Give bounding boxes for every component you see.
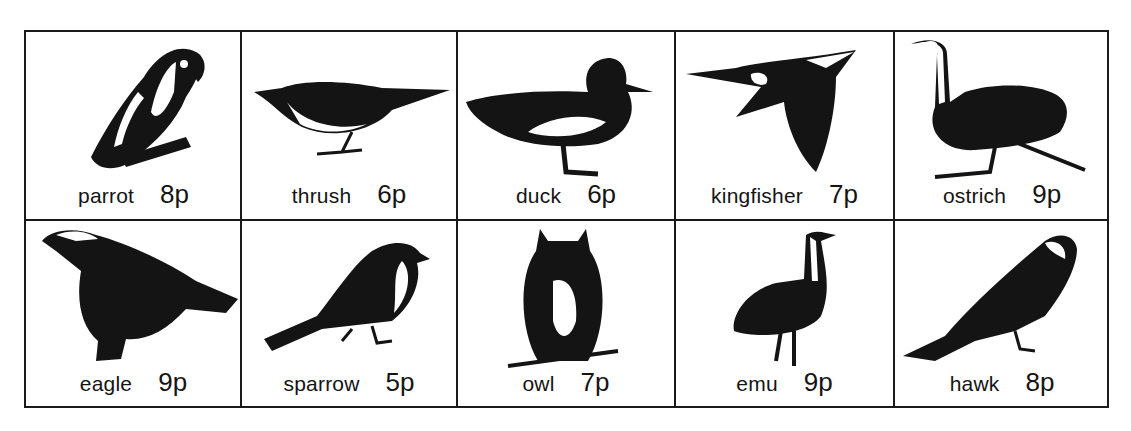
- bird-card-eagle: eagle 9p: [26, 221, 241, 408]
- bird-name: ostrich: [943, 184, 1006, 208]
- bird-label: duck 6p: [458, 179, 674, 210]
- bird-card-emu: emu 9p: [676, 221, 893, 408]
- hawk-illustration-icon: [895, 221, 1109, 371]
- emu-illustration-icon: [676, 221, 893, 371]
- bird-price: 7p: [829, 179, 858, 210]
- bird-price: 9p: [1032, 179, 1061, 210]
- bird-name: duck: [516, 184, 561, 208]
- bird-label: kingfisher 7p: [676, 179, 893, 210]
- ostrich-illustration-icon: [895, 32, 1109, 182]
- bird-price: 7p: [581, 367, 610, 398]
- bird-card-hawk: hawk 8p: [895, 221, 1109, 408]
- bird-name: owl: [522, 372, 554, 396]
- bird-card-sparrow: sparrow 5p: [242, 221, 456, 408]
- bird-price: 8p: [160, 179, 189, 210]
- bird-price: 9p: [158, 367, 187, 398]
- parrot-illustration-icon: [26, 32, 241, 182]
- bird-price: 6p: [377, 179, 406, 210]
- bird-name: sparrow: [283, 372, 359, 396]
- bird-name: hawk: [950, 372, 1000, 396]
- bird-label: ostrich 9p: [895, 179, 1109, 210]
- bird-price: 6p: [587, 179, 616, 210]
- bird-card-duck: duck 6p: [458, 32, 674, 220]
- bird-name: emu: [736, 372, 777, 396]
- bird-card-thrush: thrush 6p: [242, 32, 456, 220]
- bird-card-kingfisher: kingfisher 7p: [676, 32, 893, 220]
- bird-card-ostrich: ostrich 9p: [895, 32, 1109, 220]
- bird-name: parrot: [78, 184, 134, 208]
- sparrow-illustration-icon: [242, 221, 456, 371]
- eagle-illustration-icon: [26, 221, 241, 371]
- bird-label: hawk 8p: [895, 367, 1109, 398]
- bird-label: sparrow 5p: [242, 367, 456, 398]
- bird-label: emu 9p: [676, 367, 893, 398]
- thrush-illustration-icon: [242, 32, 456, 182]
- bird-card-parrot: parrot 8p: [26, 32, 241, 220]
- duck-illustration-icon: [458, 32, 674, 182]
- bird-price: 9p: [804, 367, 833, 398]
- bird-name: kingfisher: [711, 184, 803, 208]
- bird-label: owl 7p: [458, 367, 674, 398]
- bird-label: parrot 8p: [26, 179, 241, 210]
- bird-price: 8p: [1025, 367, 1054, 398]
- bird-card-owl: owl 7p: [458, 221, 674, 408]
- bird-name: thrush: [292, 184, 352, 208]
- bird-label: thrush 6p: [242, 179, 456, 210]
- bird-name: eagle: [80, 372, 132, 396]
- bird-price-grid: parrot 8p thrush 6p duck 6p: [24, 30, 1109, 408]
- kingfisher-illustration-icon: [676, 32, 893, 182]
- owl-illustration-icon: [458, 221, 674, 371]
- bird-label: eagle 9p: [26, 367, 241, 398]
- bird-price: 5p: [386, 367, 415, 398]
